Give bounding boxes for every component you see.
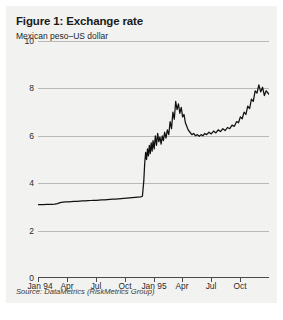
x-tick-label: Oct — [233, 282, 246, 290]
y-axis-labels: 1086420 — [6, 41, 34, 278]
page-title: Figure 1: Exchange rate — [16, 15, 143, 27]
plot-area — [38, 41, 269, 278]
y-tick-label: 4 — [12, 179, 34, 188]
y-tick-label: 10 — [12, 37, 34, 46]
y-tick-label: 6 — [12, 132, 34, 141]
x-tick-label: Apr — [175, 282, 188, 290]
figure-panel: Figure 1: Exchange rate Mexican peso–US … — [6, 6, 277, 303]
figure-source: Source: DataMetrics (RiskMetrics Group) — [16, 287, 154, 296]
exchange-rate-line-series — [38, 41, 269, 278]
y-tick-label: 8 — [12, 84, 34, 93]
x-tick-label: Jul — [206, 282, 217, 290]
y-tick-label: 2 — [12, 227, 34, 236]
